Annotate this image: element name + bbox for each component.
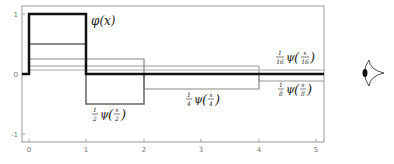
svg-text:x: x <box>301 81 305 88</box>
svg-text:4: 4 <box>186 100 191 107</box>
y-tick-labels: 1 0 -1 <box>11 11 18 139</box>
svg-text:2: 2 <box>142 146 146 154</box>
svg-text:1: 1 <box>187 91 191 98</box>
svg-text:(: ( <box>294 82 300 97</box>
svg-text:1: 1 <box>84 146 88 154</box>
svg-text:(: ( <box>202 92 208 107</box>
svg-text:2: 2 <box>114 115 119 122</box>
label-quarter-psi: 1 4 ψ ( x 4 ) <box>186 91 220 107</box>
svg-text:2: 2 <box>92 115 97 122</box>
svg-text:4: 4 <box>257 146 262 154</box>
x-tick-labels: 0 1 2 3 4 5 <box>27 146 318 154</box>
svg-text:0: 0 <box>27 146 31 154</box>
svg-text:): ) <box>309 50 315 65</box>
svg-text:(: ( <box>294 50 300 65</box>
svg-text:16: 16 <box>276 58 284 65</box>
svg-text:4: 4 <box>208 100 213 107</box>
haar-wavelet-plot: 0 1 2 3 4 5 1 0 -1 φ(x) 1 2 ψ ( x 2 ) 1 … <box>0 0 394 164</box>
svg-text:0: 0 <box>14 71 18 79</box>
label-half-psi: 1 2 ψ ( x 2 ) <box>92 106 126 122</box>
eye-icon <box>363 60 385 86</box>
label-phi: φ(x) <box>91 14 116 28</box>
svg-text:1: 1 <box>93 106 97 113</box>
svg-text:1: 1 <box>279 81 283 88</box>
label-sixteenth-psi: 1 16 ψ ( x 16 ) <box>276 49 315 65</box>
svg-text:1: 1 <box>14 11 18 19</box>
svg-text:16: 16 <box>301 58 309 65</box>
svg-text:x: x <box>115 106 119 113</box>
svg-text:(: ( <box>108 107 114 122</box>
svg-text:): ) <box>120 107 126 122</box>
svg-text:x: x <box>209 91 213 98</box>
svg-text:): ) <box>306 82 312 97</box>
svg-text:8: 8 <box>279 90 283 97</box>
svg-text:-1: -1 <box>11 131 18 139</box>
label-eighth-psi: 1 8 ψ ( x 8 ) <box>278 81 312 97</box>
svg-text:x: x <box>303 49 307 56</box>
svg-text:): ) <box>214 92 220 107</box>
svg-text:8: 8 <box>301 90 305 97</box>
svg-text:1: 1 <box>278 49 282 56</box>
svg-text:5: 5 <box>314 146 318 154</box>
svg-text:3: 3 <box>199 146 203 154</box>
